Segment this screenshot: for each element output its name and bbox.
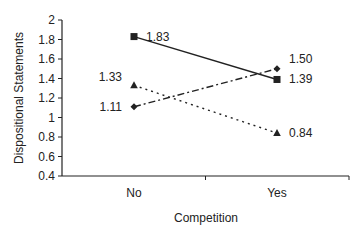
data-label: 1.50 [289,52,313,66]
y-axis-title: Dispositional Statements [12,32,26,164]
line-chart: 0.40.60.811.21.41.61.82 No Yes Competiti… [0,0,364,233]
y-tick-label: 1 [48,111,55,125]
series-line [134,85,277,133]
series-line [134,69,277,107]
y-tick-label: 1.8 [38,33,55,47]
y-tick-label: 1.6 [38,52,55,66]
square-marker-icon [274,76,281,83]
y-tick-label: 1.4 [38,72,55,86]
x-tick-label-no: No [126,186,142,200]
series-layer: 1.831.391.111.501.330.84 [99,30,313,141]
square-marker-icon [131,33,138,40]
series-diamond-dashdot: 1.111.50 [100,52,313,114]
triangle-marker-icon [130,81,138,88]
data-label: 0.84 [289,126,313,140]
y-tick-label: 2 [48,13,55,27]
data-label: 1.33 [99,70,123,84]
y-ticks: 0.40.60.811.21.41.61.82 [38,13,62,183]
x-axis-title: Competition [174,211,238,225]
y-tick-label: 0.8 [38,130,55,144]
data-label: 1.39 [289,72,313,86]
y-tick-label: 1.2 [38,91,55,105]
series-triangle-dotted: 1.330.84 [99,70,313,140]
x-tick-label-yes: Yes [267,186,287,200]
diamond-marker-icon [131,103,138,110]
series-square-solid: 1.831.39 [131,30,313,87]
y-tick-label: 0.6 [38,150,55,164]
diamond-marker-icon [274,65,281,72]
data-label: 1.83 [146,30,170,44]
triangle-marker-icon [273,129,281,136]
data-label: 1.11 [100,100,123,114]
y-tick-label: 0.4 [38,169,55,183]
